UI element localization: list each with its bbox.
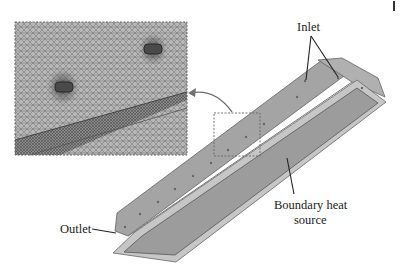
zoom-arrow bbox=[190, 92, 232, 112]
outlet-leader bbox=[92, 229, 116, 233]
outlet-label: Outlet bbox=[60, 222, 91, 236]
inlet-label: Inlet bbox=[297, 20, 320, 34]
mesh-inset bbox=[15, 22, 187, 155]
arrow-head-icon bbox=[188, 88, 196, 97]
heat-source-label-line2: source bbox=[294, 213, 327, 227]
heat-source-label-line1: Boundary heat bbox=[274, 198, 347, 212]
